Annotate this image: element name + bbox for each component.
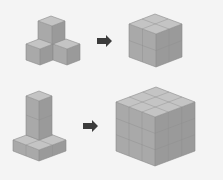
- row1-source-shape: [26, 16, 80, 65]
- cube-diagram: Cube assembly puzzle: [0, 0, 223, 180]
- column-block: [26, 91, 52, 140]
- diagram-canvas: [0, 0, 223, 180]
- row2-source-shape: [13, 91, 66, 161]
- right-arrow-icon: [97, 35, 112, 47]
- cube: [26, 39, 53, 65]
- row1-target-cube-2x2x2: [129, 14, 182, 67]
- row2-target-cube-3x3x3: [116, 87, 195, 166]
- cube: [53, 39, 80, 65]
- right-arrow-icon: [83, 120, 98, 132]
